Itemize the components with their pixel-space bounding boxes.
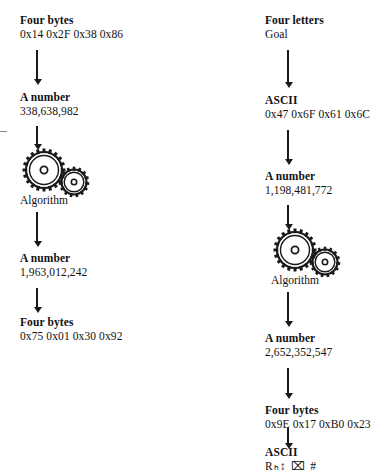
node-label: A number — [265, 170, 332, 184]
node-value: Goal — [265, 28, 324, 42]
arrow-down — [284, 368, 293, 400]
algorithm-caption: Algorithm — [271, 274, 319, 286]
node-label: A number — [20, 91, 79, 105]
node-value: 338,638,982 — [20, 105, 79, 119]
node-four-bytes-input: Four bytes 0x14 0x2F 0x38 0x86 — [20, 14, 123, 41]
node-a-number-1: A number 338,638,982 — [20, 91, 79, 118]
node-label: Four bytes — [20, 316, 123, 330]
algorithm-caption: Algorithm — [20, 194, 68, 206]
node-value: 0x75 0x01 0x30 0x92 — [20, 330, 123, 344]
node-value: 0x9E 0x17 0xB0 0x23 — [265, 418, 371, 432]
node-value: 1,963,012,242 — [20, 266, 87, 280]
arrow-down — [33, 288, 42, 314]
arrow-down — [284, 292, 293, 328]
node-value: 0x47 0x6F 0x61 0x6C — [265, 108, 370, 122]
node-four-bytes-output: Four bytes 0x9E 0x17 0xB0 0x23 — [265, 404, 371, 431]
node-label: ASCII — [265, 446, 317, 460]
node-ascii-output: ASCII Rₕ↕ ⌧ # — [265, 446, 317, 473]
gears-algorithm-icon — [18, 148, 96, 198]
node-label: A number — [265, 332, 332, 346]
node-label: A number — [20, 252, 87, 266]
scan-margin-artifact — [0, 131, 7, 132]
node-label: Four bytes — [20, 14, 123, 28]
node-four-bytes-output: Four bytes 0x75 0x01 0x30 0x92 — [20, 316, 123, 343]
node-a-number-2: A number 2,652,352,547 — [265, 332, 332, 359]
arrow-down — [284, 130, 293, 166]
node-label: ASCII — [265, 94, 370, 108]
node-ascii-input: ASCII 0x47 0x6F 0x61 0x6C — [265, 94, 370, 121]
node-a-number-2: A number 1,963,012,242 — [20, 252, 87, 279]
arrow-down — [33, 50, 42, 86]
node-value: 0x14 0x2F 0x38 0x86 — [20, 28, 123, 42]
node-value: 2,652,352,547 — [265, 346, 332, 360]
arrow-down — [284, 50, 293, 89]
gears-algorithm-icon — [269, 228, 347, 278]
node-value: Rₕ↕ ⌧ # — [265, 460, 317, 473]
node-label: Four bytes — [265, 404, 371, 418]
arrow-down — [33, 212, 42, 248]
node-value: 1,198,481,772 — [265, 184, 332, 198]
node-label: Four letters — [265, 14, 324, 28]
node-four-letters: Four letters Goal — [265, 14, 324, 41]
node-a-number-1: A number 1,198,481,772 — [265, 170, 332, 197]
